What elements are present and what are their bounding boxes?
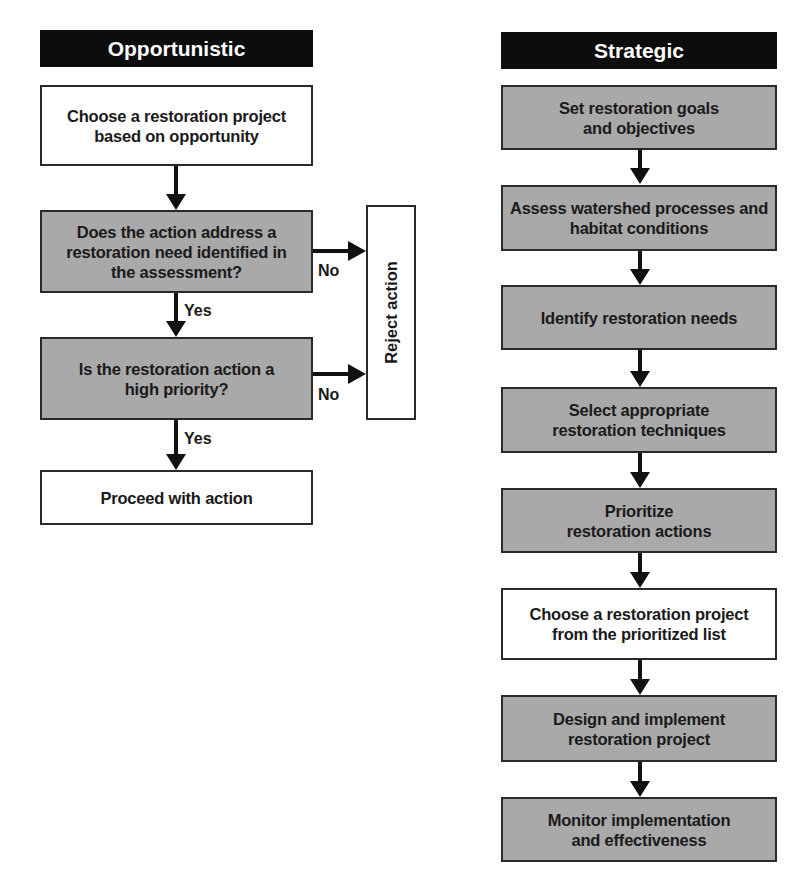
connector [174,293,178,321]
edge-label-no: No [318,386,339,404]
connector [638,350,642,371]
opp-step-high-priority: Is the restoration action a high priorit… [40,337,313,420]
strat-step-design-implement: Design and implement restoration project [501,695,777,762]
strat-step-identify-needs: Identify restoration needs [501,285,777,350]
connector [313,372,349,376]
opportunistic-title: Opportunistic [108,37,246,61]
connector [174,166,178,194]
arrow-down-icon [630,781,650,797]
arrow-down-icon [630,168,650,184]
arrow-down-icon [166,194,186,210]
opp-step-addresses-need: Does the action address a restoration ne… [40,210,313,293]
arrow-down-icon [630,572,650,588]
edge-label-no: No [318,262,339,280]
connector [174,420,178,454]
edge-label-yes: Yes [184,430,212,448]
arrow-right-icon [348,364,366,384]
connector [638,453,642,472]
connector [638,553,642,572]
arrow-down-icon [630,679,650,695]
arrow-down-icon [166,321,186,337]
connector [638,251,642,269]
connector [638,762,642,781]
reject-action-label: Reject action [382,261,401,364]
arrow-right-icon [348,241,366,261]
reject-action-box: Reject action [366,205,416,420]
strat-step-set-goals: Set restoration goals and objectives [501,85,777,150]
arrow-down-icon [166,454,186,470]
strat-step-choose-project: Choose a restoration project from the pr… [501,588,777,660]
arrow-down-icon [630,269,650,285]
strat-step-assess: Assess watershed processes and habitat c… [501,185,777,251]
strat-step-select-techniques: Select appropriate restoration technique… [501,387,777,453]
strategic-title: Strategic [594,39,684,63]
arrow-down-icon [630,472,650,488]
opp-step-proceed: Proceed with action [40,470,313,525]
connector [638,660,642,679]
strat-step-monitor: Monitor implementation and effectiveness [501,797,777,862]
connector [638,150,642,168]
strat-step-prioritize: Prioritize restoration actions [501,488,777,553]
connector [313,249,349,253]
opp-step-choose-project: Choose a restoration project based on op… [40,85,313,166]
opportunistic-header: Opportunistic [40,30,313,67]
strategic-header: Strategic [501,32,777,69]
arrow-down-icon [630,371,650,387]
edge-label-yes: Yes [184,302,212,320]
